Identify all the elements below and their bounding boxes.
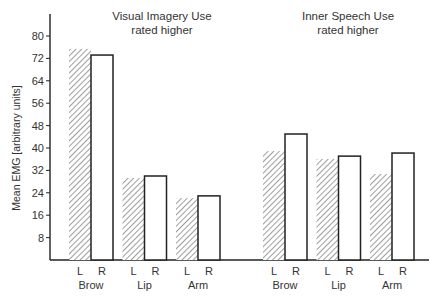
y-tick-label: 32 [32,164,44,176]
bar-inner-speech-use-arm-l [370,174,392,260]
y-tick-label: 80 [32,30,44,42]
y-tick-label: 56 [32,97,44,109]
y-tick-label: 64 [32,75,44,87]
bar-inner-speech-use-brow-l [263,151,285,260]
side-label: L [184,265,190,277]
side-label: R [346,265,354,277]
side-label: L [324,265,330,277]
bar-inner-speech-use-brow-r [285,134,307,260]
bar-inner-speech-use-lip-r [339,156,361,260]
panel-title-speech-line1: Inner Speech Use [302,10,394,22]
category-label: Arm [382,279,402,291]
bar-inner-speech-use-lip-l [317,159,339,260]
side-label: L [378,265,384,277]
y-tick-label: 16 [32,209,44,221]
panel-title-speech-line2: rated higher [317,24,379,36]
side-label: R [399,265,407,277]
category-label: Lip [137,279,152,291]
category-label: Lip [331,279,346,291]
side-label: R [152,265,160,277]
side-label: L [77,265,83,277]
y-tick-label: 8 [38,232,44,244]
y-tick-label: 24 [32,187,44,199]
emg-bar-chart: 8162432404856647280 Mean EMG [arbitrary … [0,0,444,297]
side-label: L [271,265,277,277]
category-label: Brow [78,279,103,291]
bar-visual-imagery-use-brow-l [69,49,91,260]
bar-visual-imagery-use-brow-r [91,55,113,260]
bar-inner-speech-use-arm-r [392,153,414,260]
side-label: R [292,265,300,277]
y-axis-label: Mean EMG [arbitrary units] [10,85,22,211]
panel-title-visual-line2: rated higher [131,24,193,36]
side-label: R [98,265,106,277]
y-tick-label: 48 [32,120,44,132]
y-ticks: 8162432404856647280 [32,30,50,244]
y-tick-label: 40 [32,142,44,154]
side-label: L [130,265,136,277]
bars [69,49,414,260]
y-tick-label: 72 [32,52,44,64]
bar-visual-imagery-use-arm-l [176,198,198,260]
x-labels: LRBrowLRLipLRArmLRBrowLRLipLRArm [77,265,407,291]
panel-title-visual-line1: Visual Imagery Use [112,10,212,22]
bar-visual-imagery-use-lip-r [145,176,167,260]
category-label: Brow [272,279,297,291]
bar-visual-imagery-use-lip-l [123,178,145,260]
bar-visual-imagery-use-arm-r [198,196,220,260]
category-label: Arm [188,279,208,291]
side-label: R [205,265,213,277]
